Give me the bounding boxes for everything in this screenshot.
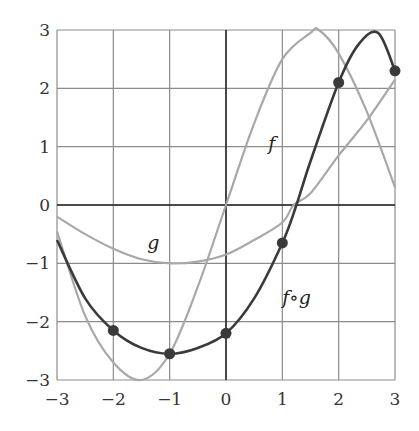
tick-labels: −3−2−101233210−1−2−3 (25, 20, 400, 409)
label-f: f (266, 132, 278, 154)
x-tick-label: −1 (157, 389, 182, 409)
y-tick-label: 2 (39, 78, 50, 98)
function-composition-chart: −3−2−101233210−1−2−3 f g f∘g (0, 0, 419, 431)
data-point (108, 325, 119, 336)
x-tick-label: −3 (44, 389, 69, 409)
x-tick-label: 2 (333, 389, 344, 409)
y-tick-label: −3 (25, 370, 50, 390)
data-point (333, 77, 344, 88)
x-tick-label: −2 (101, 389, 126, 409)
label-f-compose-g: f∘g (280, 286, 311, 308)
y-tick-label: 0 (39, 195, 50, 215)
y-tick-label: −2 (25, 312, 50, 332)
y-tick-label: 3 (39, 20, 50, 40)
data-point (277, 237, 288, 248)
x-tick-label: 1 (277, 389, 288, 409)
x-tick-label: 0 (221, 389, 232, 409)
label-g: g (147, 231, 159, 253)
data-point (390, 65, 401, 76)
data-point-markers (108, 65, 401, 359)
data-point (221, 328, 232, 339)
y-tick-label: 1 (39, 137, 50, 157)
y-tick-label: −1 (25, 253, 50, 273)
x-tick-label: 3 (390, 389, 401, 409)
data-point (164, 348, 175, 359)
